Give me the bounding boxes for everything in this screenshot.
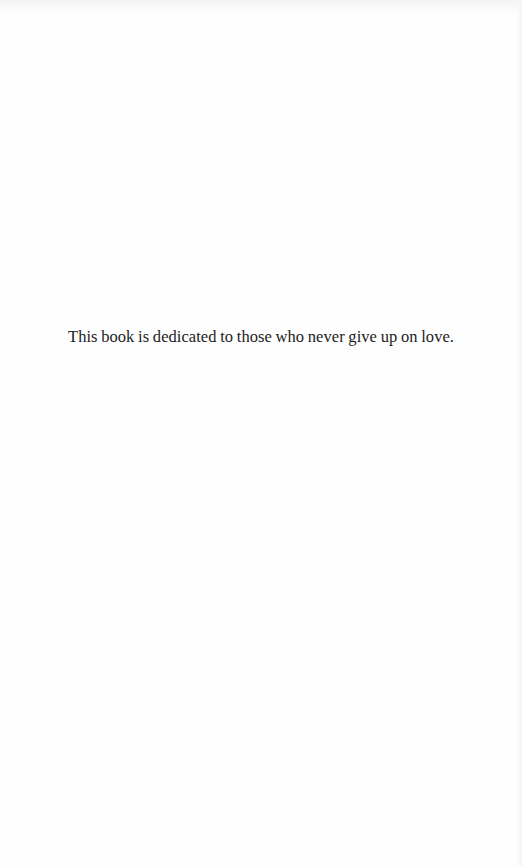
book-page: This book is dedicated to those who neve… — [0, 0, 522, 866]
scan-edge-top — [0, 0, 522, 14]
scan-edge-right — [516, 0, 522, 866]
dedication-text: This book is dedicated to those who neve… — [0, 326, 522, 348]
